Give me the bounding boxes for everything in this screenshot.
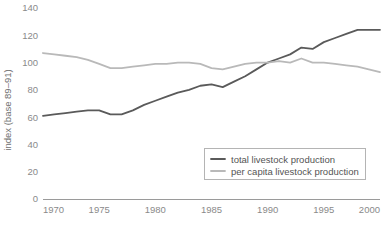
chart-legend: total livestock production per capita li… (205, 149, 366, 180)
x-tick-1970: 1970 (43, 204, 64, 215)
line-chart: 020406080100120140 197019751980198519901… (0, 0, 389, 225)
y-tick-140: 140 (22, 2, 38, 13)
y-tick-20: 20 (27, 166, 38, 177)
y-tick-80: 80 (27, 84, 38, 95)
legend-label-total: total livestock production (231, 154, 335, 165)
x-tick-1980: 1980 (145, 204, 166, 215)
x-tick-1985: 1985 (201, 204, 222, 215)
legend-label-per-capita: per capita livestock production (231, 166, 359, 177)
x-tick-2000: 2000 (359, 204, 380, 215)
y-tick-100: 100 (22, 57, 38, 68)
x-tick-1990: 1990 (257, 204, 278, 215)
y-tick-40: 40 (27, 139, 38, 150)
x-tick-1995: 1995 (313, 204, 334, 215)
y-tick-120: 120 (22, 30, 38, 41)
chart-container: 020406080100120140 197019751980198519901… (0, 0, 389, 225)
x-axis-tick-labels: 1970197519801985199019952000 (43, 204, 380, 215)
y-axis-title: index (base 89–91) (2, 69, 13, 150)
chart-background (0, 0, 389, 225)
y-tick-0: 0 (33, 193, 38, 204)
y-tick-60: 60 (27, 112, 38, 123)
x-tick-1975: 1975 (89, 204, 110, 215)
